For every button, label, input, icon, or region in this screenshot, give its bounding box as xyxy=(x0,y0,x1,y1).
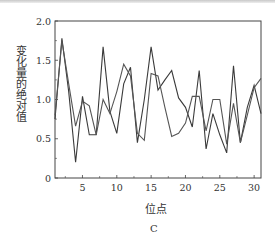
series-line-1 xyxy=(55,38,261,162)
plot-area xyxy=(55,21,261,178)
x-axis-label: 位点 xyxy=(145,200,167,216)
figure-caption: C xyxy=(150,223,158,234)
y-tick-label: 0 xyxy=(45,173,51,184)
line-chart: 00.51.01.52.051015202530 xyxy=(0,0,275,243)
y-axis-label: 变化量的绝对值 xyxy=(12,45,26,122)
y-tick-label: 1.5 xyxy=(36,55,51,66)
x-tick-label: 25 xyxy=(214,182,226,193)
x-tick-label: 5 xyxy=(79,182,85,193)
x-tick-label: 15 xyxy=(145,182,157,193)
x-tick-label: 10 xyxy=(111,182,123,193)
y-tick-label: 0.5 xyxy=(36,133,51,144)
y-tick-label: 2.0 xyxy=(36,16,51,27)
x-tick-label: 30 xyxy=(248,182,260,193)
y-tick-label: 1.0 xyxy=(36,94,51,105)
series-line-2 xyxy=(55,41,261,145)
data-lines xyxy=(55,38,261,162)
plot-frame xyxy=(55,21,261,178)
x-tick-label: 20 xyxy=(179,182,191,193)
